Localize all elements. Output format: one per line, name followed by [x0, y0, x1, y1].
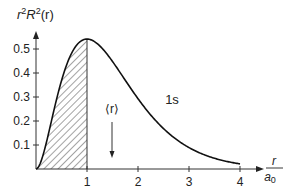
mean-r-label: ⟨r⟩	[105, 102, 119, 116]
x-axis-label: r a0	[264, 154, 283, 185]
x-axis-arrow-icon	[256, 166, 264, 172]
y-tick-label: 0.4	[13, 66, 30, 80]
x-tick-label: 1	[84, 175, 91, 189]
y-tick-label: 0.3	[13, 90, 30, 104]
y-tick-label: 0.1	[13, 138, 30, 152]
x-tick-label: 4	[237, 175, 244, 189]
radial-probability-chart: 1 2 3 4 0.1 0.2 0.3 0.4 0.5 r2R2(r) r a0…	[0, 0, 284, 195]
x-tick-label: 2	[135, 175, 142, 189]
shaded-area-0-to-1	[36, 39, 87, 169]
curve-label-1s: 1s	[165, 92, 179, 107]
svg-text:r: r	[272, 154, 277, 168]
y-tick-label: 0.2	[13, 114, 30, 128]
svg-text:a0: a0	[264, 170, 276, 185]
x-tick-label: 3	[186, 175, 193, 189]
y-axis-arrow-icon	[33, 31, 39, 39]
y-axis-label: r2R2(r)	[17, 6, 54, 22]
mean-r-arrow-icon	[110, 151, 115, 158]
y-tick-label: 0.5	[13, 42, 30, 56]
